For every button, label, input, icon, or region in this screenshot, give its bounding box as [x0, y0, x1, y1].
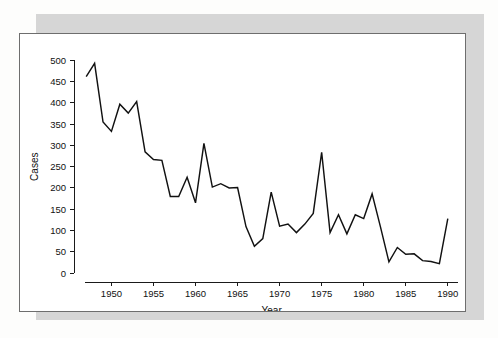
x-tick-label: 1985 [395, 288, 416, 299]
line-chart: 050100150200250300350400450500 195019551… [20, 34, 465, 311]
x-axis-ticks [111, 282, 447, 286]
x-axis-title: Year [262, 305, 283, 311]
y-tick-label: 50 [55, 246, 66, 257]
x-tick-label: 1960 [185, 288, 206, 299]
x-tick-label: 1980 [353, 288, 374, 299]
y-tick-label: 400 [50, 97, 66, 108]
y-tick-label: 350 [50, 119, 66, 130]
y-tick-label: 100 [50, 225, 66, 236]
y-tick-label: 500 [50, 55, 66, 66]
y-tick-label: 200 [50, 182, 66, 193]
cases-series-line [86, 63, 448, 263]
y-tick-label: 250 [50, 161, 66, 172]
x-tick-label: 1970 [269, 288, 290, 299]
x-tick-label: 1955 [143, 288, 164, 299]
y-axis: 050100150200250300350400450500 [50, 55, 74, 279]
y-tick-label: 0 [61, 268, 66, 279]
x-axis-tick-labels: 195019551960196519701975198019851990 [101, 288, 459, 299]
x-tick-label: 1950 [101, 288, 122, 299]
x-tick-label: 1965 [227, 288, 248, 299]
x-axis: 195019551960196519701975198019851990 [85, 282, 458, 299]
x-tick-label: 1975 [311, 288, 332, 299]
y-tick-label: 150 [50, 204, 66, 215]
y-tick-label: 300 [50, 140, 66, 151]
y-axis-title: Cases [29, 153, 40, 181]
y-tick-label: 450 [50, 76, 66, 87]
y-axis-ticks [70, 60, 74, 273]
y-axis-tick-labels: 050100150200250300350400450500 [50, 55, 66, 279]
figure-card: 050100150200250300350400450500 195019551… [19, 33, 466, 312]
x-tick-label: 1990 [437, 288, 458, 299]
